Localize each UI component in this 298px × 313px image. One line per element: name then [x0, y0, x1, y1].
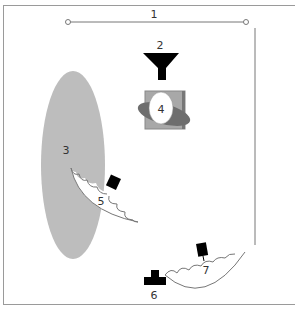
- label-subject: 4: [158, 103, 165, 116]
- hair-light-icon: 2: [143, 39, 179, 80]
- backdrop: 1: [66, 8, 249, 25]
- key-light-icon: [106, 174, 121, 190]
- fill-light: 7: [165, 242, 245, 288]
- reflector-panel: 3: [41, 71, 105, 259]
- fill-light-icon: [196, 242, 208, 257]
- lighting-diagram: 1 2 4 3 5 7 6: [0, 0, 298, 313]
- label-backdrop: 1: [151, 8, 158, 21]
- label-camera: 6: [151, 289, 158, 302]
- subject: 4: [135, 91, 192, 131]
- camera-icon: 6: [144, 270, 166, 302]
- label-fill-light: 7: [203, 264, 210, 277]
- label-key-light: 5: [98, 195, 105, 208]
- label-hair-light: 2: [157, 39, 164, 52]
- label-reflector: 3: [63, 144, 70, 157]
